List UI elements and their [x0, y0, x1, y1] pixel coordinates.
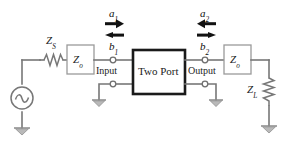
arrow-b1-left	[105, 32, 124, 38]
label-output-port: Output	[188, 66, 216, 76]
label-b1-symbol: b	[109, 40, 115, 52]
input-port-terminals	[99, 57, 133, 100]
label-b2-symbol: b	[200, 40, 206, 52]
label-b2: b2	[200, 41, 209, 52]
label-a2-subscript: 2	[206, 16, 210, 24]
ac-voltage-source	[11, 87, 33, 109]
arrow-b2-right	[197, 32, 216, 38]
label-a1-subscript: 1	[115, 16, 119, 24]
output-port-terminals	[185, 57, 224, 100]
label-a1: a1	[109, 8, 118, 19]
ground-symbol-source	[14, 128, 30, 135]
label-zo-output-subscript: o	[236, 62, 240, 70]
label-two-port: Two Port	[138, 66, 178, 77]
label-load-impedance: ZL	[247, 84, 257, 95]
label-zs-subscript: S	[52, 43, 56, 51]
label-a1-symbol: a	[109, 7, 115, 19]
label-b2-subscript: 2	[206, 49, 210, 57]
label-b1-subscript: 1	[115, 49, 119, 57]
source-branch-wires	[22, 60, 40, 128]
resistor-zl	[264, 78, 275, 106]
label-zl-subscript: L	[253, 92, 257, 100]
label-zo-output: Zo	[230, 54, 240, 65]
label-zo-input-subscript: o	[79, 62, 83, 70]
two-port-network-diagram: ZS Zo Zo ZL a1 b1 a2 b2 Input Two Port O…	[0, 0, 291, 143]
label-input-port: Input	[96, 66, 117, 76]
label-zo-input: Zo	[73, 54, 83, 65]
ground-symbol-output	[209, 100, 223, 107]
ground-symbol-input	[92, 100, 106, 107]
resistor-zs	[40, 55, 67, 66]
label-b1: b1	[109, 41, 118, 52]
label-a2: a2	[200, 8, 209, 19]
ground-symbol-load	[261, 126, 277, 133]
label-a2-symbol: a	[200, 7, 206, 19]
label-source-impedance: ZS	[46, 35, 56, 46]
